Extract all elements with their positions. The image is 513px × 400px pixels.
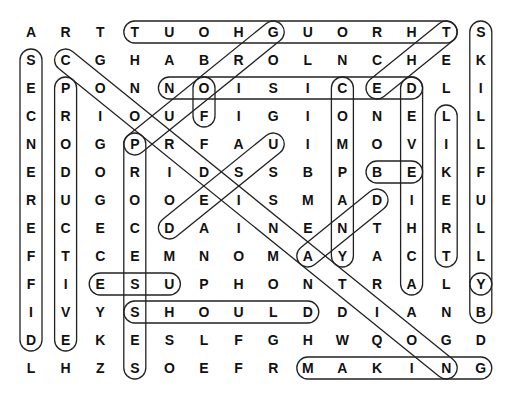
letter-cell[interactable]: S — [466, 20, 496, 44]
letter-cell[interactable]: R — [16, 188, 46, 212]
letter-cell[interactable]: N — [258, 216, 288, 240]
letter-cell[interactable]: S — [16, 48, 46, 72]
letter-cell[interactable]: C — [397, 244, 427, 268]
letter-cell[interactable]: D — [154, 216, 184, 240]
letter-cell[interactable]: U — [258, 132, 288, 156]
letter-cell[interactable]: E — [362, 76, 392, 100]
letter-cell[interactable]: F — [189, 104, 219, 128]
letter-cell[interactable]: L — [431, 104, 461, 128]
letter-cell[interactable]: O — [85, 160, 115, 184]
letter-cell[interactable]: C — [120, 216, 150, 240]
letter-cell[interactable]: R — [224, 48, 254, 72]
letter-cell[interactable]: G — [466, 356, 496, 380]
letter-cell[interactable]: O — [189, 300, 219, 324]
letter-cell[interactable]: E — [189, 356, 219, 380]
letter-cell[interactable]: K — [362, 356, 392, 380]
letter-cell[interactable]: H — [51, 356, 81, 380]
letter-cell[interactable]: A — [293, 244, 323, 268]
letter-cell[interactable]: I — [397, 188, 427, 212]
letter-cell[interactable]: L — [16, 356, 46, 380]
letter-cell[interactable]: A — [362, 244, 392, 268]
letter-cell[interactable]: R — [120, 160, 150, 184]
letter-cell[interactable]: U — [466, 188, 496, 212]
letter-cell[interactable]: H — [120, 48, 150, 72]
letter-cell[interactable]: I — [466, 76, 496, 100]
letter-cell[interactable]: I — [362, 300, 392, 324]
letter-cell[interactable]: F — [189, 132, 219, 156]
letter-cell[interactable]: B — [189, 48, 219, 72]
letter-cell[interactable]: R — [362, 272, 392, 296]
letter-cell[interactable]: N — [431, 356, 461, 380]
letter-cell[interactable]: Y — [466, 272, 496, 296]
letter-cell[interactable]: G — [85, 188, 115, 212]
letter-cell[interactable]: A — [397, 300, 427, 324]
letter-cell[interactable]: T — [431, 244, 461, 268]
letter-cell[interactable]: T — [362, 216, 392, 240]
letter-cell[interactable]: T — [120, 20, 150, 44]
letter-cell[interactable]: O — [120, 104, 150, 128]
letter-cell[interactable]: R — [362, 20, 392, 44]
letter-cell[interactable]: R — [258, 356, 288, 380]
letter-cell[interactable]: D — [16, 328, 46, 352]
letter-cell[interactable]: L — [466, 132, 496, 156]
letter-cell[interactable]: R — [51, 104, 81, 128]
letter-cell[interactable]: F — [466, 160, 496, 184]
letter-cell[interactable]: N — [189, 244, 219, 268]
letter-cell[interactable]: A — [327, 356, 357, 380]
letter-cell[interactable]: F — [224, 328, 254, 352]
letter-cell[interactable]: F — [16, 272, 46, 296]
letter-cell[interactable]: S — [258, 188, 288, 212]
letter-cell[interactable]: H — [224, 20, 254, 44]
letter-cell[interactable]: O — [85, 76, 115, 100]
letter-cell[interactable]: U — [224, 300, 254, 324]
letter-cell[interactable]: B — [293, 160, 323, 184]
letter-cell[interactable]: S — [154, 328, 184, 352]
letter-cell[interactable]: I — [224, 104, 254, 128]
letter-cell[interactable]: I — [293, 104, 323, 128]
letter-cell[interactable]: F — [16, 244, 46, 268]
letter-cell[interactable]: P — [51, 76, 81, 100]
letter-cell[interactable]: H — [154, 300, 184, 324]
letter-cell[interactable]: O — [397, 328, 427, 352]
letter-cell[interactable]: L — [466, 104, 496, 128]
letter-cell[interactable]: H — [397, 48, 427, 72]
letter-cell[interactable]: O — [189, 76, 219, 100]
letter-cell[interactable]: L — [466, 216, 496, 240]
letter-cell[interactable]: H — [293, 328, 323, 352]
letter-cell[interactable]: D — [51, 160, 81, 184]
letter-cell[interactable]: M — [258, 244, 288, 268]
letter-cell[interactable]: K — [85, 328, 115, 352]
letter-cell[interactable]: Z — [85, 356, 115, 380]
letter-cell[interactable]: L — [293, 48, 323, 72]
letter-cell[interactable]: I — [224, 76, 254, 100]
letter-cell[interactable]: I — [16, 300, 46, 324]
letter-cell[interactable]: E — [431, 48, 461, 72]
letter-cell[interactable]: A — [154, 48, 184, 72]
letter-cell[interactable]: L — [189, 328, 219, 352]
letter-cell[interactable]: O — [189, 20, 219, 44]
letter-cell[interactable]: D — [466, 328, 496, 352]
letter-cell[interactable]: U — [154, 20, 184, 44]
letter-cell[interactable]: M — [293, 356, 323, 380]
letter-cell[interactable]: A — [224, 132, 254, 156]
letter-cell[interactable]: N — [120, 76, 150, 100]
letter-cell[interactable]: E — [293, 216, 323, 240]
letter-cell[interactable]: R — [51, 20, 81, 44]
letter-cell[interactable]: G — [258, 20, 288, 44]
letter-cell[interactable]: U — [154, 104, 184, 128]
letter-cell[interactable]: H — [224, 272, 254, 296]
letter-cell[interactable]: G — [258, 104, 288, 128]
letter-cell[interactable]: K — [466, 48, 496, 72]
letter-cell[interactable]: V — [397, 132, 427, 156]
letter-cell[interactable]: I — [224, 188, 254, 212]
letter-cell[interactable]: E — [120, 244, 150, 268]
letter-cell[interactable]: U — [154, 272, 184, 296]
letter-cell[interactable]: C — [327, 76, 357, 100]
letter-cell[interactable]: E — [85, 216, 115, 240]
letter-cell[interactable]: P — [120, 132, 150, 156]
letter-cell[interactable]: T — [327, 272, 357, 296]
letter-cell[interactable]: O — [51, 132, 81, 156]
letter-cell[interactable]: E — [16, 160, 46, 184]
letter-cell[interactable]: A — [189, 216, 219, 240]
letter-cell[interactable]: H — [397, 20, 427, 44]
